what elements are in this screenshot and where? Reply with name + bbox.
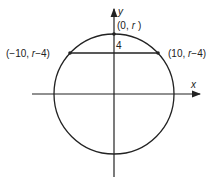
right-point-label: (10, r−4) (168, 48, 206, 59)
left-point-label: (−10, r−4) (6, 48, 50, 59)
top-point-label: (0,r) (117, 20, 141, 31)
segment-length-label: 4 (116, 40, 122, 51)
y-axis-label: y (117, 6, 124, 17)
circle-diagram: y x (0,r) 4 (−10, r−4) (10, r−4) (0, 0, 217, 180)
x-axis-label: x (190, 79, 197, 90)
point-right (156, 51, 160, 55)
point-top (112, 32, 116, 36)
point-left (68, 51, 72, 55)
